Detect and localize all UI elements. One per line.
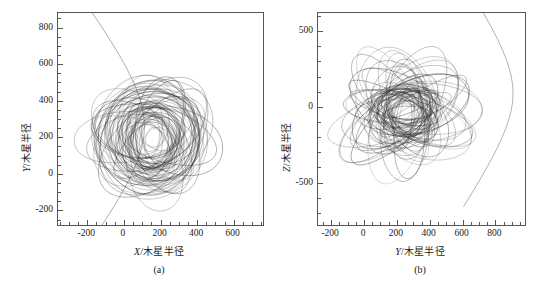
y-tick-label-b: 500 [287,25,313,35]
y-tick-label-a: 400 [27,95,53,105]
panel-b: -2000200400600800-5000500 Y/木星半径 Z/木星半径 … [268,0,536,285]
x-tick-label-a: 600 [226,228,240,238]
y-tick-label-a: -200 [27,204,53,214]
y-axis-unit-a: /木星半径 [21,122,32,166]
trajectory-plot-b [318,13,525,225]
plot-area-b [317,12,526,226]
y-axis-symbol-b: Z [281,166,292,172]
orbit-path [370,65,458,143]
x-axis-unit-b: /木星半径 [401,246,445,257]
figure-container: -2000200400600-2000200400600800 X/木星半径 Y… [0,0,536,285]
y-axis-title-b: Z/木星半径 [278,122,293,172]
orbit-path [128,96,194,157]
x-tick-label-b: 0 [361,228,366,238]
x-tick-label-a: 0 [121,228,126,238]
y-tick-label-a: 800 [27,22,53,32]
x-tick-label-a: 400 [189,228,203,238]
plot-area-a [57,12,264,226]
y-tick-label-b: 0 [287,101,313,111]
x-tick-label-b: 200 [389,228,403,238]
y-axis-symbol-a: Y [21,166,32,172]
panel-caption-a: (a) [153,264,164,275]
y-tick-label-a: 600 [27,58,53,68]
y-axis-title-a: Y/木星半径 [18,122,33,172]
x-axis-title-b: Y/木星半径 [395,243,445,258]
trajectory-plot-a [58,13,263,225]
panel-a: -2000200400600-2000200400600800 X/木星半径 Y… [0,0,268,285]
y-tick-label-b: -500 [287,177,313,187]
panel-caption-b: (b) [414,264,426,275]
x-tick-label-a: -200 [78,228,95,238]
escape-trajectory [436,13,513,207]
x-tick-label-a: 200 [152,228,166,238]
x-tick-label-b: 800 [487,228,501,238]
x-tick-label-b: -200 [321,228,338,238]
x-axis-unit-a: /木星半径 [140,246,184,257]
y-axis-unit-b: /木星半径 [281,122,292,166]
x-axis-title-a: X/木星半径 [134,243,184,258]
x-tick-label-b: 600 [454,228,468,238]
x-tick-label-b: 400 [422,228,436,238]
